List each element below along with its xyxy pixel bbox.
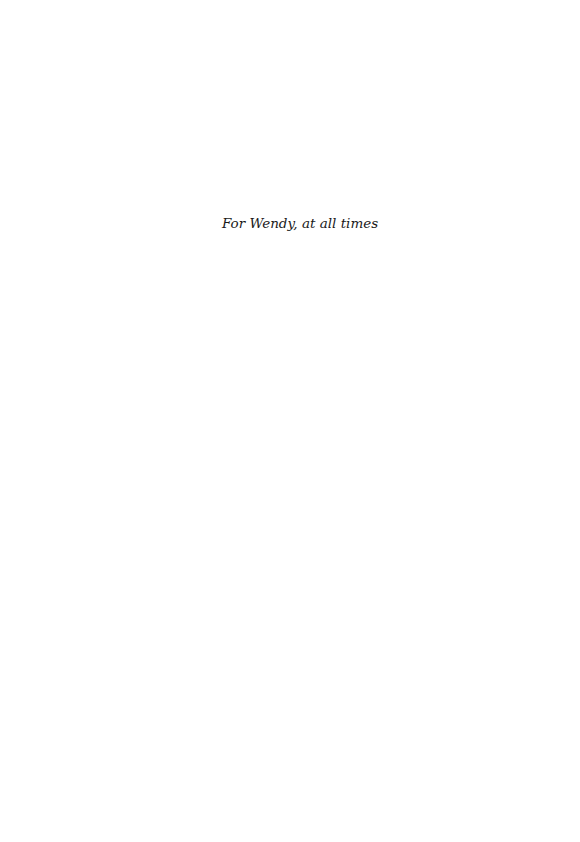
book-page: For Wendy, at all times bbox=[0, 0, 580, 842]
dedication-text: For Wendy, at all times bbox=[20, 214, 580, 232]
